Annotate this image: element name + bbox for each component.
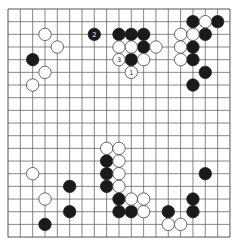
go-board: 231 — [0, 0, 240, 248]
black-stone — [162, 206, 174, 218]
white-stone — [174, 53, 186, 65]
black-stone — [39, 218, 51, 230]
white-stone — [187, 28, 199, 40]
white-stone — [137, 206, 149, 218]
white-stone — [100, 142, 112, 154]
black-stone — [199, 66, 211, 78]
black-stone — [187, 41, 199, 53]
white-stone — [26, 79, 38, 91]
white-stone — [113, 41, 125, 53]
black-stone — [125, 53, 137, 65]
move-number-label: 1 — [129, 69, 133, 77]
white-stone — [26, 168, 38, 180]
white-stone — [39, 66, 51, 78]
black-stone — [137, 28, 149, 40]
black-stone — [113, 193, 125, 205]
white-stone: 3 — [113, 53, 125, 65]
white-stone — [125, 193, 137, 205]
white-stone — [137, 53, 149, 65]
black-stone — [211, 15, 223, 27]
white-stone — [162, 218, 174, 230]
black-stone — [187, 53, 199, 65]
white-stone — [174, 218, 186, 230]
white-stone — [113, 168, 125, 180]
black-stone — [125, 28, 137, 40]
black-stone — [63, 180, 75, 192]
black-stone — [125, 206, 137, 218]
white-stone — [199, 15, 211, 27]
black-stone — [199, 168, 211, 180]
white-stone — [113, 142, 125, 154]
black-stone — [137, 41, 149, 53]
white-stone — [39, 28, 51, 40]
black-stone — [100, 155, 112, 167]
white-stone — [137, 193, 149, 205]
white-stone — [51, 41, 63, 53]
black-stone — [100, 168, 112, 180]
black-stone — [100, 180, 112, 192]
white-stone — [174, 28, 186, 40]
white-stone — [174, 41, 186, 53]
white-stone — [113, 180, 125, 192]
white-stone — [150, 41, 162, 53]
white-stone — [113, 155, 125, 167]
black-stone — [187, 193, 199, 205]
move-number-label: 3 — [117, 56, 121, 64]
black-stone — [113, 206, 125, 218]
black-stone — [63, 206, 75, 218]
black-stone: 2 — [88, 28, 100, 40]
black-stone — [187, 206, 199, 218]
white-stone — [125, 41, 137, 53]
black-stone — [113, 28, 125, 40]
black-stone — [199, 28, 211, 40]
white-stone: 1 — [125, 66, 137, 78]
black-stone — [26, 53, 38, 65]
black-stone — [187, 79, 199, 91]
move-number-label: 2 — [92, 31, 96, 39]
black-stone — [187, 15, 199, 27]
white-stone — [39, 193, 51, 205]
